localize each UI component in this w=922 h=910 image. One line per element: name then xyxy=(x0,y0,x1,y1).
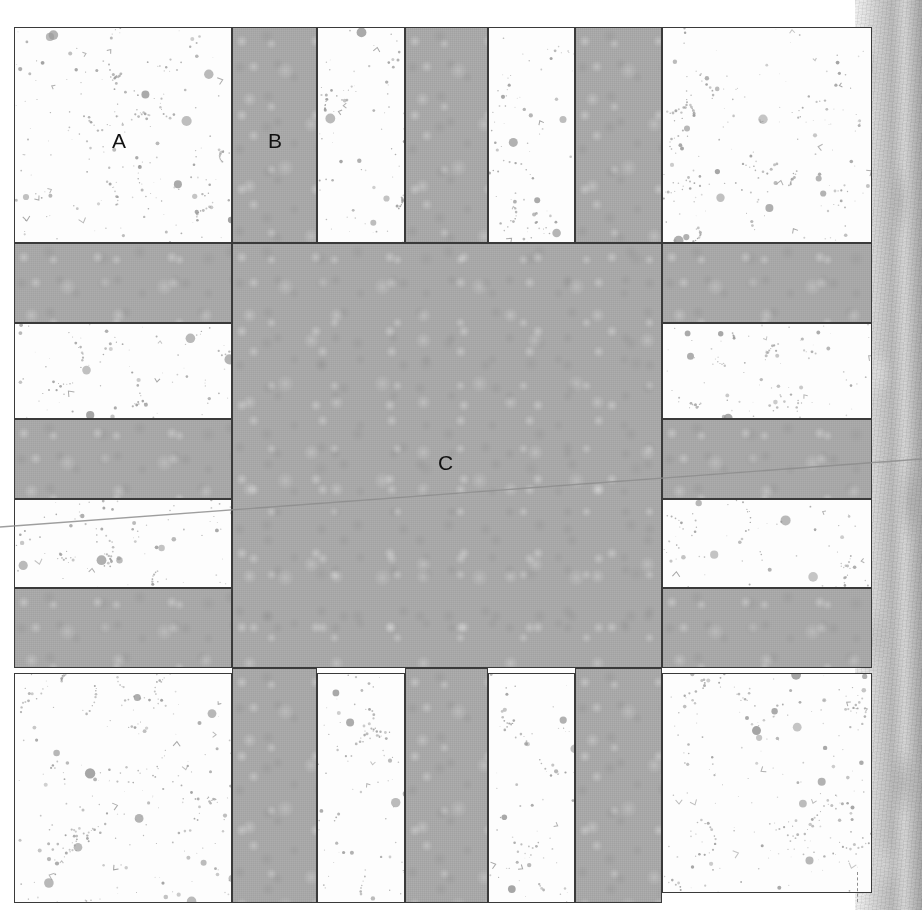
cell-r1c7 xyxy=(662,27,872,243)
label-a: A xyxy=(112,130,126,151)
cell-r4c7 xyxy=(662,419,872,499)
cell-r2c7 xyxy=(662,243,872,323)
cell-r7c3 xyxy=(317,673,405,903)
cell-r5c7 xyxy=(662,499,872,588)
cell-r7c4 xyxy=(405,668,488,903)
cell-r7c6 xyxy=(575,668,662,903)
diagram-canvas: A B C xyxy=(0,0,922,910)
cell-r2c1 xyxy=(14,243,232,323)
cell-r3c7 xyxy=(662,323,872,419)
cell-r1c4 xyxy=(405,27,488,243)
cell-r1c3 xyxy=(317,27,405,243)
cell-r7c1 xyxy=(14,673,232,903)
cell-r6c1 xyxy=(14,588,232,668)
cell-r3c1 xyxy=(14,323,232,419)
label-b: B xyxy=(268,130,282,151)
cell-r1c6 xyxy=(575,27,662,243)
cell-r7c2 xyxy=(232,668,317,903)
cell-r7c7 xyxy=(662,673,872,893)
dashed-tick-mark xyxy=(857,872,858,902)
label-c: C xyxy=(438,452,453,473)
cell-r4c1 xyxy=(14,419,232,499)
cell-r6c7 xyxy=(662,588,872,668)
cell-r1c5 xyxy=(488,27,575,243)
cell-r5c1 xyxy=(14,499,232,588)
cell-r7c5 xyxy=(488,673,575,903)
